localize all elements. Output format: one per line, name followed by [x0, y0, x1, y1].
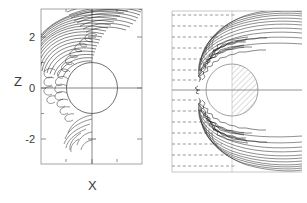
- z-axis-label: Z: [14, 74, 22, 89]
- z-tick-label-minus2: -2: [25, 133, 35, 145]
- x-axis-label: X: [88, 178, 97, 193]
- figure-canvas: Z X 2 0 -2: [0, 0, 307, 203]
- z-tick-label-2: 2: [29, 31, 35, 43]
- z-tick-label-0: 0: [29, 82, 35, 94]
